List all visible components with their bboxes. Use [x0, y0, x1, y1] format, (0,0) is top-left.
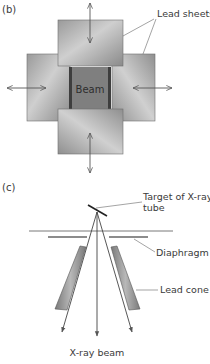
- lead-cone-callout: Lead cone: [160, 284, 209, 295]
- callout-line-target: [96, 202, 142, 208]
- beam-edge-right: [108, 67, 111, 109]
- target-callout-line1: Target of X-ray: [142, 191, 210, 202]
- lead-sheet-bottom: [58, 109, 123, 154]
- lead-cone-left: [55, 246, 86, 310]
- x-ray-beam-caption: X-ray beam: [70, 347, 125, 358]
- lead-cone-right: [111, 246, 140, 310]
- lead-sheets-callout: Lead sheets: [157, 8, 210, 19]
- callout-line-diaphragm: [134, 239, 155, 252]
- diaphragm-callout: Diaphragm: [156, 247, 209, 258]
- beam-edge-left: [69, 67, 72, 109]
- target-callout-line2: tube: [143, 202, 165, 213]
- lead-sheet-top: [58, 20, 123, 66]
- callout-line-top-sheet: [123, 19, 154, 36]
- panel-c-label: (c): [2, 182, 15, 193]
- beam-label: Beam: [76, 84, 105, 95]
- panel-b-label: (b): [2, 4, 16, 15]
- beam-ray-left: [62, 212, 97, 332]
- diagram-canvas: (b) Beam Lead sheets (c) Target of X-ray…: [0, 0, 210, 364]
